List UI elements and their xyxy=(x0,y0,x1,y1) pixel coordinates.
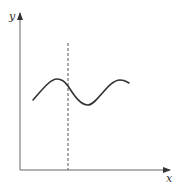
wave-curve xyxy=(33,79,129,105)
function-graph: y x xyxy=(0,0,188,191)
y-axis-label: y xyxy=(8,10,16,23)
x-axis-label: x xyxy=(166,172,173,185)
